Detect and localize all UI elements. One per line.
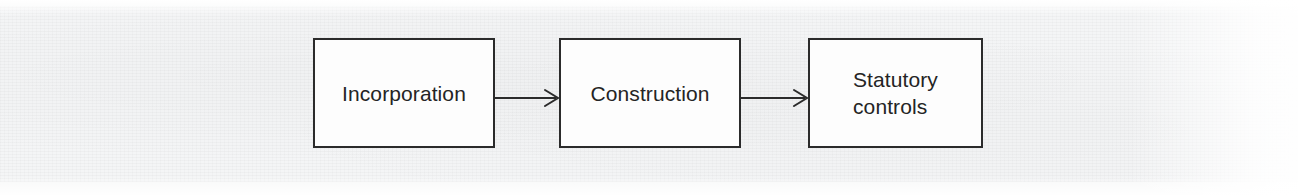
node-construction-label: Construction (561, 80, 739, 107)
arrow-incorporation-to-construction (493, 84, 563, 112)
node-incorporation-label: Incorporation (315, 80, 493, 107)
node-statutory-controls-label: Statutory controls (810, 66, 938, 120)
arrow-construction-to-statutory-controls (739, 84, 812, 112)
node-statutory-controls[interactable]: Statutory controls (808, 38, 983, 148)
node-construction[interactable]: Construction (559, 38, 741, 148)
texture-fade-right (1128, 0, 1298, 196)
texture-fade-bottom (0, 176, 1298, 196)
diagram-canvas: Incorporation Construction Statutory con… (0, 0, 1298, 196)
texture-fade-top (0, 0, 1298, 16)
node-incorporation[interactable]: Incorporation (313, 38, 495, 148)
